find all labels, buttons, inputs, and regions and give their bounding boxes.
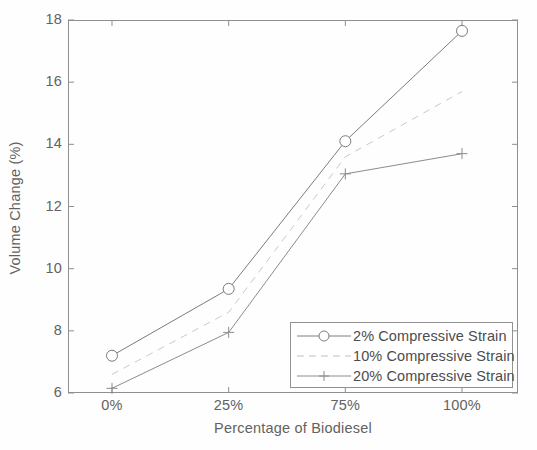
y-tick-label: 14 — [28, 136, 62, 151]
x-tick-label: 100% — [443, 398, 481, 413]
legend-swatch-plus-line-icon — [295, 367, 353, 385]
legend-label: 10% Compressive Strain — [353, 349, 515, 364]
legend-item-2-percent: 2% Compressive Strain — [291, 326, 512, 346]
legend-item-10-percent: 10% Compressive Strain — [291, 346, 512, 366]
legend-label: 2% Compressive Strain — [353, 329, 507, 344]
y-tick-label: 6 — [28, 385, 62, 400]
y-tick-label: 8 — [28, 323, 62, 338]
y-tick-label: 16 — [28, 74, 62, 89]
y-axis-title: Volume Change (%) — [7, 108, 23, 308]
legend-label: 20% Compressive Strain — [353, 369, 515, 384]
x-axis-title: Percentage of Biodiesel — [68, 420, 518, 436]
chart-figure: Volume Change (%) 681012141618 0%25%75%1… — [0, 0, 537, 450]
legend-swatch-circle-line-icon — [295, 327, 353, 345]
y-tick-label: 10 — [28, 261, 62, 276]
y-axis-tick-labels: 681012141618 — [22, 0, 62, 450]
chart-legend: 2% Compressive Strain 10% Compressive St… — [290, 322, 513, 388]
y-tick-label: 12 — [28, 199, 62, 214]
x-tick-label: 25% — [214, 398, 244, 413]
legend-item-20-percent: 20% Compressive Strain — [291, 366, 512, 386]
x-tick-label: 75% — [331, 398, 361, 413]
y-tick-label: 18 — [28, 12, 62, 27]
x-tick-label: 0% — [101, 398, 122, 413]
legend-swatch-dashed-line-icon — [295, 347, 353, 365]
